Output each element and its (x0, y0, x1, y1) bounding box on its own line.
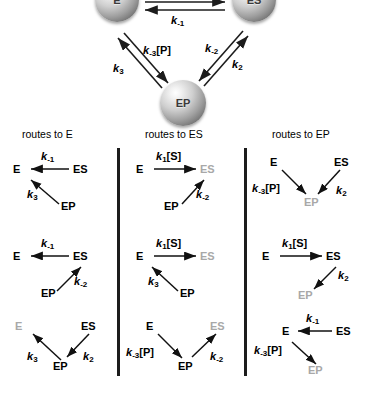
route-rate-label-top: k-1 (41, 150, 54, 164)
route-rate-label-top: k1[S] (156, 150, 181, 164)
rate-label-k2: k2 (232, 58, 243, 72)
rate-subscript: 2 (344, 274, 348, 283)
route-rate-label-diag: k-3[P] (254, 344, 282, 358)
route-rate-label-top: k-1 (41, 237, 54, 251)
route-node-ES: ES (326, 250, 341, 262)
route-arrows-c1r1 (5, 150, 125, 224)
route-rate-label-right: k2 (83, 350, 94, 364)
route-node-EP: EP (304, 196, 319, 208)
rate-subscript: 2 (238, 63, 242, 72)
route-node-EP: EP (164, 200, 179, 212)
route-node-E: E (13, 163, 20, 175)
figure-canvas: E ES EP k-1 k-3[P] k3 k-2 k2 routes to E… (0, 0, 373, 395)
route-node-E: E (136, 250, 143, 262)
route-panel-c1r3: E ES EP k3 k2 (5, 312, 125, 386)
rate-subscript: 3 (119, 67, 123, 76)
route-rate-label-top: k-1 (306, 312, 319, 326)
route-node-EP: EP (308, 364, 323, 376)
rate-label-k-minus-1: k-1 (171, 14, 184, 28)
route-arrows-c2r1 (130, 150, 250, 224)
route-node-EP: EP (178, 360, 193, 372)
node-sphere-E-label: E (113, 0, 120, 6)
route-node-E: E (262, 250, 269, 262)
route-node-EP: EP (53, 360, 68, 372)
route-rate-label-right: k-2 (210, 350, 223, 364)
rate-bracket: [P] (267, 344, 282, 356)
rate-subscript: 2 (89, 355, 93, 364)
route-rate-label-diag: k-2 (74, 275, 87, 289)
rate-bracket: [P] (156, 44, 171, 56)
rate-subscript: -1 (312, 317, 319, 326)
route-arrows-c3r2 (256, 237, 373, 311)
route-panel-c3r3: E ES EP k-1 k-3[P] (256, 312, 373, 386)
route-panel-c2r3: E ES EP k-3[P] k-2 (130, 312, 250, 386)
column-header-routes-to-EP: routes to EP (272, 128, 330, 140)
node-sphere-EP: EP (160, 80, 206, 126)
node-sphere-ES-label: ES (247, 0, 262, 6)
route-node-EP: EP (180, 287, 195, 299)
route-node-EP: EP (298, 289, 313, 301)
route-panel-c3r2: E ES EP k1[S] k2 (256, 237, 373, 311)
route-node-ES: ES (210, 320, 225, 332)
rate-label-k3: k3 (113, 62, 124, 76)
column-header-routes-to-E: routes to E (22, 128, 73, 140)
rate-subscript: 2 (342, 189, 346, 198)
route-panel-c3r1: E ES EP k-3[P] k2 (256, 150, 373, 224)
rate-subscript: -1 (177, 19, 184, 28)
rate-label-k-minus-2: k-2 (205, 42, 218, 56)
route-node-ES: ES (200, 250, 215, 262)
route-node-E: E (13, 250, 20, 262)
route-panel-c1r2: E ES EP k-1 k-2 (5, 237, 125, 311)
route-rate-label-left: k-3[P] (252, 182, 280, 196)
rate-subscript: -2 (216, 355, 223, 364)
rate-subscript: -1 (47, 242, 54, 251)
route-arrows-c1r3 (5, 312, 125, 386)
route-node-ES: ES (334, 156, 349, 168)
route-panel-c2r1: E ES EP k1[S] k-2 (130, 150, 250, 224)
route-rate-label-top: k1[S] (282, 237, 307, 251)
route-arrows-c1r2 (5, 237, 125, 311)
route-node-E: E (282, 325, 289, 337)
rate-bracket: [S] (167, 237, 182, 249)
route-node-EP: EP (41, 287, 56, 299)
route-rate-label-diag: k-2 (196, 188, 209, 202)
route-rate-label-diag: k3 (27, 188, 38, 202)
route-node-ES: ES (81, 320, 96, 332)
rate-subscript: -2 (211, 47, 218, 56)
route-panel-c2r2: E ES EP k1[S] k3 (130, 237, 250, 311)
route-node-EP: EP (61, 200, 76, 212)
rate-subscript: 3 (33, 193, 37, 202)
rate-subscript: -2 (80, 280, 87, 289)
rate-bracket: [P] (265, 182, 280, 194)
node-sphere-EP-label: EP (176, 97, 191, 109)
rate-bracket: [S] (167, 150, 182, 162)
rate-subscript: 3 (33, 355, 37, 364)
route-rate-label-diag: k2 (338, 269, 349, 283)
route-rate-label-diag: k3 (148, 275, 159, 289)
route-arrows-c2r2 (130, 237, 250, 311)
rate-bracket: [S] (293, 237, 308, 249)
route-node-ES: ES (336, 325, 351, 337)
route-node-E: E (270, 156, 277, 168)
rate-subscript: -1 (47, 155, 54, 164)
figure-caption-clipped (0, 381, 373, 395)
rate-subscript: -2 (202, 193, 209, 202)
route-rate-label-left: k3 (27, 350, 38, 364)
route-node-E: E (146, 320, 153, 332)
route-node-E: E (15, 320, 22, 332)
route-panel-c1r1: E ES EP k-1 k3 (5, 150, 125, 224)
route-rate-label-left: k-3[P] (126, 346, 154, 360)
rate-bracket: [P] (139, 346, 154, 358)
route-node-ES: ES (73, 250, 88, 262)
column-header-routes-to-ES: routes to ES (145, 128, 203, 140)
route-node-E: E (136, 163, 143, 175)
route-rate-label-top: k1[S] (156, 237, 181, 251)
rate-subscript: 3 (154, 280, 158, 289)
cyclic-reaction-scheme: E ES EP k-1 k-3[P] k3 k-2 k2 (0, 0, 373, 125)
route-node-ES: ES (200, 163, 215, 175)
rate-label-k-minus-3-P: k-3[P] (143, 44, 171, 58)
route-rate-label-right: k2 (336, 184, 347, 198)
route-node-ES: ES (73, 163, 88, 175)
